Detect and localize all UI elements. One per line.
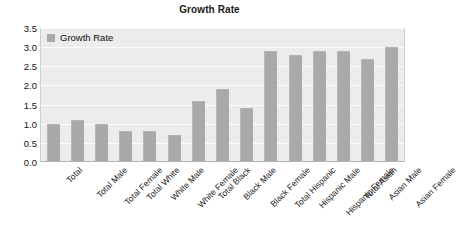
bar <box>95 124 108 162</box>
legend-swatch-growth-rate <box>47 34 55 42</box>
bar <box>385 47 398 162</box>
bar <box>313 51 326 162</box>
y-tick-label: 0.5 <box>3 137 37 148</box>
bars-layer <box>41 28 404 162</box>
bar <box>192 101 205 162</box>
chart-title: Growth Rate <box>0 4 419 15</box>
y-tick-label: 1.5 <box>3 99 37 110</box>
y-tick-label: 2.5 <box>3 61 37 72</box>
bar <box>264 51 277 162</box>
y-tick-label: 3.5 <box>3 23 37 34</box>
bar <box>168 135 181 162</box>
y-tick-label: 3.0 <box>3 42 37 53</box>
chart-legend: Growth Rate <box>47 33 113 43</box>
bar <box>289 55 302 162</box>
bar <box>143 131 156 162</box>
plot-right-border <box>404 28 405 162</box>
y-tick-label: 2.0 <box>3 80 37 91</box>
bar <box>119 131 132 162</box>
y-tick-label: 1.0 <box>3 118 37 129</box>
bar <box>71 120 84 162</box>
bar <box>240 108 253 162</box>
legend-label-growth-rate: Growth Rate <box>60 33 113 43</box>
plot-area <box>41 28 404 162</box>
bar <box>47 124 60 162</box>
x-axis-tick-labels: TotalTotal MaleTotal FemaleTotal WhiteWh… <box>0 162 419 238</box>
bar <box>216 89 229 162</box>
bar <box>361 59 374 162</box>
x-tick-label: Total <box>64 165 84 185</box>
y-axis-line <box>40 28 41 162</box>
x-tick-label: Total Male <box>95 165 130 200</box>
bar <box>337 51 350 162</box>
